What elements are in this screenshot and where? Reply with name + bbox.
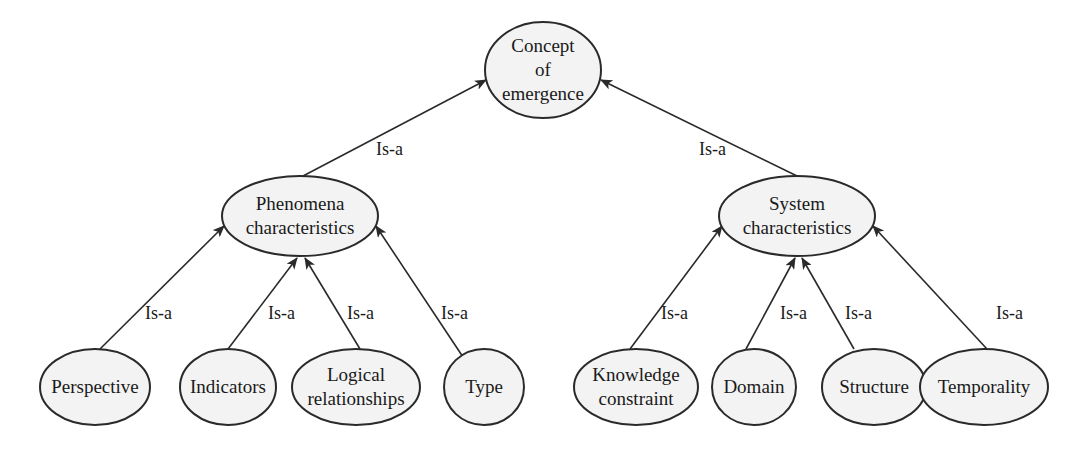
node-ellipse — [292, 349, 420, 425]
node-label: Concept — [511, 35, 575, 56]
edge-label: Is-a — [441, 303, 468, 323]
arrow-icon — [100, 226, 224, 349]
edge-label: Is-a — [780, 303, 807, 323]
edge-label: Is-a — [145, 303, 172, 323]
node-phenomena: Phenomenacharacteristics — [222, 176, 378, 256]
edge-system-to-root: Is-a — [601, 80, 797, 176]
node-label: Type — [465, 376, 503, 397]
edge-label: Is-a — [661, 303, 688, 323]
is-a-hierarchy-diagram: Is-aIs-aIs-aIs-aIs-aIs-aIs-aIs-aIs-aIs-a… — [0, 0, 1086, 450]
node-logical: Logicalrelationships — [292, 349, 420, 425]
node-type: Type — [444, 349, 524, 425]
node-label: Phenomena — [256, 193, 345, 214]
node-perspective: Perspective — [40, 349, 150, 425]
edge-label: Is-a — [845, 303, 872, 323]
node-label: characteristics — [743, 217, 852, 238]
node-label: characteristics — [246, 217, 355, 238]
node-domain: Domain — [712, 349, 796, 425]
node-label: System — [769, 193, 825, 214]
edge-indicators-to-phenomena: Is-a — [228, 258, 297, 349]
edge-label: Is-a — [347, 303, 374, 323]
arrow-icon — [601, 80, 797, 176]
node-root: Conceptofemergence — [485, 22, 601, 118]
node-label: Knowledge — [592, 364, 680, 385]
node-temporality: Temporality — [920, 349, 1048, 425]
edge-label: Is-a — [699, 139, 726, 159]
edge-temporality-to-system: Is-a — [873, 226, 1023, 349]
node-label: of — [535, 59, 552, 80]
arrow-icon — [303, 80, 486, 176]
node-label: Logical — [327, 364, 385, 385]
node-ellipse — [574, 349, 698, 425]
edge-knowledge-to-system: Is-a — [630, 226, 722, 349]
edge-perspective-to-phenomena: Is-a — [100, 226, 224, 349]
node-indicators: Indicators — [180, 349, 276, 425]
edge-structure-to-system: Is-a — [802, 258, 872, 349]
node-label: relationships — [307, 388, 404, 409]
edge-label: Is-a — [996, 303, 1023, 323]
node-label: emergence — [502, 83, 584, 104]
edge-label: Is-a — [268, 303, 295, 323]
edge-domain-to-system: Is-a — [746, 258, 807, 349]
node-structure: Structure — [822, 349, 926, 425]
node-label: Domain — [723, 376, 785, 397]
edge-logical-to-phenomena: Is-a — [305, 258, 374, 349]
node-label: Structure — [839, 376, 909, 397]
node-label: constraint — [599, 388, 675, 409]
arrow-icon — [376, 226, 463, 357]
arrow-icon — [873, 226, 987, 349]
node-ellipse — [222, 176, 378, 256]
node-ellipse — [719, 176, 875, 256]
edge-label: Is-a — [376, 139, 403, 159]
node-system: Systemcharacteristics — [719, 176, 875, 256]
edge-phenomena-to-root: Is-a — [303, 80, 486, 176]
edge-type-to-phenomena: Is-a — [376, 226, 468, 357]
node-label: Temporality — [938, 376, 1031, 397]
nodes-layer: ConceptofemergencePhenomenacharacteristi… — [40, 22, 1048, 425]
node-label: Indicators — [190, 376, 266, 397]
node-knowledge: Knowledgeconstraint — [574, 349, 698, 425]
node-label: Perspective — [51, 376, 139, 397]
arrow-icon — [630, 226, 722, 349]
